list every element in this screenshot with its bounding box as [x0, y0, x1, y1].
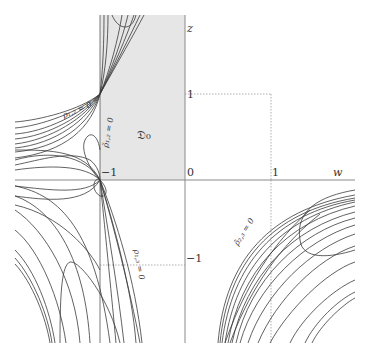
origin-label: 0 [187, 166, 194, 179]
curve-family-lower-right [218, 190, 355, 343]
w-one-label: 1 [272, 166, 279, 179]
region-d0-label: 𝔇₀ [137, 128, 151, 142]
z-one-label: 1 [187, 88, 194, 101]
region-d0 [100, 15, 185, 180]
rho23-tilde-label: ρ̃₂,₃ = 0 [232, 216, 256, 248]
axes [15, 15, 355, 343]
z-minus-one-label: −1 [186, 252, 202, 265]
rho12-label: ρ₁,₂ = 0 [60, 100, 93, 120]
w-axis-label: w [333, 166, 343, 179]
rho13-label: ρ₁,₃ = 0 [132, 248, 146, 281]
diagram-figure: z w 0 1 1 −1 −1 𝔇₀ ρ₁,₂ = 0 ρ̃₁,₂ = 0 ρ₁… [0, 0, 371, 357]
curve-family-lower-left [15, 180, 142, 343]
z-axis-label: z [186, 22, 193, 35]
w-minus-one-label: −1 [101, 166, 117, 179]
